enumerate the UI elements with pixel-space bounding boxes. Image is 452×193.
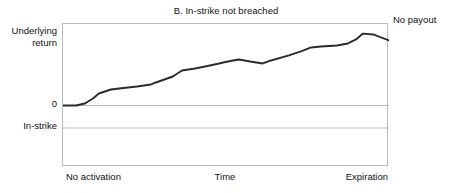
y-axis-top-label-line1: Underlying xyxy=(12,25,57,36)
y-axis-top-label: Underlying return xyxy=(0,25,57,48)
plot-area xyxy=(62,23,388,166)
plot-svg xyxy=(63,24,389,167)
chart-figure: B. In-strike not breached Underlying ret… xyxy=(0,0,452,193)
y-axis-zero-label: 0 xyxy=(0,98,57,110)
x-axis-end-label: Expiration xyxy=(307,171,388,183)
y-axis-in-strike-label: In-strike xyxy=(0,120,57,132)
chart-title: B. In-strike not breached xyxy=(0,5,452,17)
underlying-return-line xyxy=(63,34,389,106)
y-axis-top-label-line2: return xyxy=(32,37,57,48)
no-payout-annotation: No payout xyxy=(393,14,436,26)
